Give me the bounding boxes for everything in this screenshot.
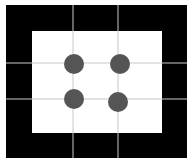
dot	[64, 54, 84, 74]
dot	[64, 89, 84, 109]
dot	[108, 92, 128, 112]
grid-dots-diagram	[0, 0, 192, 163]
inner-panel	[32, 31, 162, 133]
dot	[110, 54, 130, 74]
